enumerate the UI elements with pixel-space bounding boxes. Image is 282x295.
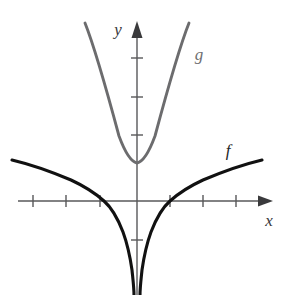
y-axis-label: y (112, 20, 122, 39)
x-axis-arrow-icon (258, 196, 273, 207)
curve-label-g: g (195, 45, 204, 64)
curve-f-left-branch (12, 160, 134, 295)
curve-f-right-branch (140, 160, 262, 295)
plot-canvas: y x g f (0, 0, 282, 295)
x-axis-label: x (264, 211, 273, 230)
curve-label-f: f (226, 141, 233, 160)
math-figure: y x g f (0, 0, 282, 295)
y-axis-arrow-icon (132, 21, 143, 38)
